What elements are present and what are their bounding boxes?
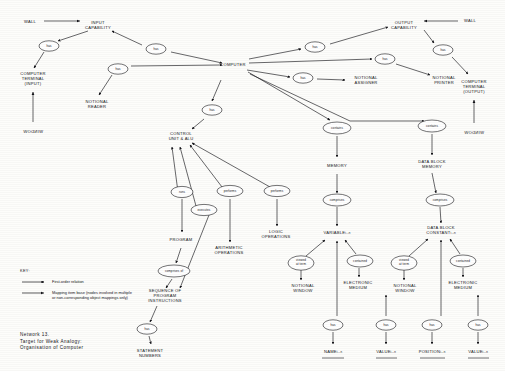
edge-has-printer bbox=[396, 64, 430, 75]
edge-comprises-constant bbox=[440, 207, 441, 223]
edge-performs-logic-control bbox=[192, 143, 270, 187]
edge-computer-hasoutput bbox=[249, 49, 301, 59]
edge-has-assigner bbox=[317, 79, 345, 80]
diagram-canvas bbox=[0, 0, 505, 371]
edge-runs-control bbox=[172, 147, 178, 192]
edge-computer-hasprinter bbox=[249, 59, 372, 63]
network-diagram-page: WALL INPUT CAPABILITY COMPUTER TERMINAL … bbox=[0, 0, 505, 371]
edge-comprises-sequence bbox=[166, 279, 172, 288]
legend-heading: KEY: bbox=[20, 268, 30, 273]
edge-viewed2-constant bbox=[409, 239, 428, 256]
edge-performs-arith-control bbox=[190, 145, 222, 187]
edge-has-statement bbox=[149, 336, 151, 344]
edge-dbm-comprises bbox=[432, 173, 436, 193]
edge-sequence-has bbox=[150, 306, 157, 322]
legend-arrow-group bbox=[22, 282, 44, 293]
edge-has-outputcap bbox=[330, 27, 388, 44]
edge-group bbox=[33, 21, 489, 358]
edge-executes-sequence bbox=[180, 215, 209, 288]
edge-has-terminal-in bbox=[34, 52, 44, 68]
legend-item-mapping-item-base: Mapping item base (nodes involved in mul… bbox=[52, 290, 132, 301]
edge-contained1-variable bbox=[345, 240, 356, 254]
diagram-caption: Network 13. Target for Weak Analogy: Org… bbox=[20, 332, 83, 352]
edge-contained2-constant bbox=[450, 239, 460, 254]
edge-has-terminal-out bbox=[452, 57, 468, 74]
legend-item-first-order-relation: First-order relation bbox=[52, 279, 84, 284]
edge-has-inputcap bbox=[112, 31, 142, 45]
edge-program-comprises bbox=[176, 248, 181, 263]
edge-computer-hasreader bbox=[131, 65, 222, 66]
edge-viewed1-variable bbox=[306, 240, 325, 256]
edge-computer-hasinput bbox=[171, 52, 222, 63]
edge-inputcap-has bbox=[58, 31, 88, 41]
edge-computer-contains-dbm bbox=[250, 74, 424, 121]
edge-has-control bbox=[192, 119, 204, 129]
node-window-right: WINDOW bbox=[464, 130, 484, 135]
edge-computer-hascontrol bbox=[212, 80, 221, 101]
edge-outputcap-has bbox=[424, 30, 434, 43]
node-window-left: WINDOW bbox=[23, 129, 43, 134]
edge-has-reader bbox=[99, 75, 112, 95]
